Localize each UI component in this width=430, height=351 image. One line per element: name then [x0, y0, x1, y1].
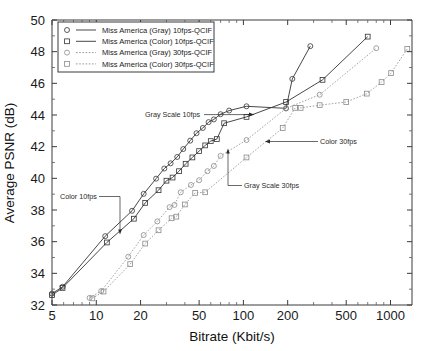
y-tick-label: 38	[31, 203, 45, 218]
data-point-circle	[126, 254, 131, 259]
chart-figure: 3234363840424446485051020501002005001000…	[0, 0, 430, 351]
annotation-label: Color 10fps	[60, 192, 97, 201]
annotation-gray-scale-10fps: Gray Scale 10fps	[145, 110, 254, 119]
y-tick-label: 46	[31, 76, 45, 91]
series-layer	[50, 34, 410, 301]
x-tick-label: 10	[89, 308, 103, 323]
y-tick-label: 36	[31, 234, 45, 249]
series-1	[50, 34, 371, 297]
annotation-arrowhead	[249, 113, 254, 117]
annotation-leader	[99, 197, 122, 233]
x-tick-label: 200	[277, 308, 299, 323]
x-tick-label: 5	[48, 308, 55, 323]
y-tick-label: 34	[31, 266, 45, 281]
x-tick-label: 500	[335, 308, 357, 323]
y-tick-label: 50	[31, 13, 45, 28]
series-line	[52, 37, 368, 296]
y-tick-label: 44	[31, 108, 45, 123]
x-tick-label: 50	[192, 308, 206, 323]
x-tick-label: 100	[233, 308, 255, 323]
x-axis-title: Bitrate (Kbit/s)	[189, 329, 275, 344]
y-axis-title: Average PSNR (dB)	[2, 103, 17, 224]
y-tick-label: 42	[31, 139, 45, 154]
legend-label: Miss America (Gray) 30fps-QCIF	[102, 48, 212, 57]
chart-svg: 3234363840424446485051020501002005001000…	[0, 0, 430, 351]
data-point-circle	[317, 92, 322, 97]
data-point-square	[405, 46, 410, 51]
data-point-square	[174, 214, 179, 219]
data-point-circle	[374, 46, 379, 51]
y-tick-label: 40	[31, 171, 45, 186]
data-point-circle	[244, 138, 249, 143]
annotation-leader	[228, 152, 242, 186]
series-2	[87, 46, 379, 301]
x-tick-label: 20	[133, 308, 147, 323]
annotation-color-10fps: Color 10fps	[60, 192, 122, 235]
annotation-gray-scale-30fps: Gray Scale 30fps	[226, 149, 299, 191]
series-line	[92, 49, 407, 299]
legend-label: Miss America (Color) 10fps-QCIF	[102, 37, 214, 46]
series-3	[90, 46, 410, 300]
annotation-label: Gray Scale 10fps	[145, 110, 201, 119]
annotation-label: Gray Scale 30fps	[244, 181, 300, 190]
x-tick-label: 1000	[376, 308, 405, 323]
annotation-label: Color 30fps	[320, 137, 357, 146]
data-point-circle	[205, 169, 210, 174]
y-tick-label: 48	[31, 44, 45, 59]
annotations-layer: Gray Scale 10fpsColor 10fpsColor 30fpsGr…	[60, 110, 357, 235]
y-tick-label: 32	[31, 298, 45, 313]
chart-legend: Miss America (Gray) 10fps-QCIFMiss Ameri…	[58, 22, 214, 72]
annotation-color-30fps: Color 30fps	[265, 137, 357, 146]
data-point-circle	[172, 202, 177, 207]
legend-label: Miss America (Gray) 10fps-QCIF	[102, 26, 212, 35]
legend-label: Miss America (Color) 30fps-QCIF	[102, 60, 214, 69]
